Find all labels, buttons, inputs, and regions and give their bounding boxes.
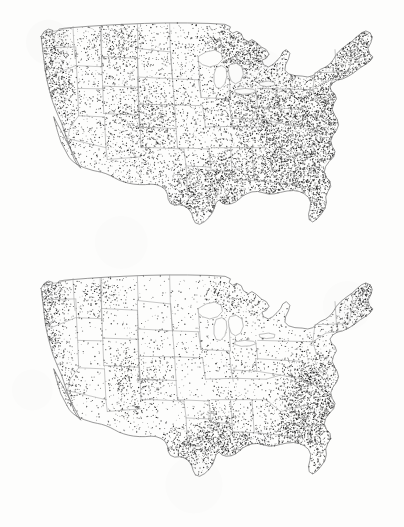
state-boundary-46 — [186, 166, 211, 167]
great-lake-4 — [259, 81, 275, 86]
state-boundary-64 — [259, 433, 280, 435]
state-boundary-56 — [231, 370, 233, 381]
state-boundary-40 — [172, 79, 198, 80]
state-boundary-28 — [79, 368, 105, 369]
state-boundary-46 — [186, 418, 211, 419]
state-boundary-17 — [76, 299, 77, 319]
state-boundary-78 — [335, 302, 336, 325]
state-boundary-32 — [106, 400, 107, 412]
state-boundary-0 — [73, 27, 75, 59]
great-lake-2 — [228, 315, 243, 336]
state-boundary-39 — [184, 401, 186, 418]
state-boundary-16 — [48, 318, 102, 329]
state-boundary-14 — [43, 279, 74, 286]
lower-us-dot-density-map — [0, 258, 404, 527]
great-lake-3 — [235, 88, 256, 94]
great-lake-3 — [235, 340, 256, 346]
state-boundary-22 — [103, 86, 139, 87]
state-boundary-53 — [229, 351, 231, 370]
state-boundary-67 — [281, 153, 305, 159]
state-boundary-17 — [76, 47, 77, 67]
great-lake-0 — [198, 50, 222, 67]
state-boundary-28 — [79, 116, 105, 117]
state-boundary-14 — [43, 27, 74, 34]
state-boundary-29 — [68, 368, 79, 391]
state-boundary-66 — [266, 400, 280, 412]
great-lake-4 — [259, 333, 275, 338]
state-boundary-12 — [175, 105, 176, 129]
state-boundary-7 — [138, 77, 172, 79]
great-lake-1 — [214, 318, 227, 341]
state-boundary-40 — [172, 331, 198, 332]
state-boundary-61 — [230, 400, 232, 432]
state-boundary-9 — [172, 331, 174, 357]
state-boundary-31 — [68, 139, 106, 148]
figure-caption — [0, 517, 404, 527]
state-boundary-48 — [170, 304, 172, 331]
state-boundary-43 — [203, 358, 206, 379]
great-lake-0 — [198, 302, 222, 319]
state-boundary-26 — [77, 319, 79, 368]
state-boundary-57 — [234, 378, 266, 379]
state-boundary-42 — [175, 357, 203, 358]
figure-root — [0, 0, 404, 527]
upper-us-dot-density-map — [0, 0, 404, 258]
state-boundary-22 — [103, 338, 139, 339]
upper-map-boundary-layer — [41, 23, 373, 224]
state-boundary-19 — [102, 56, 138, 58]
state-boundary-48 — [170, 52, 172, 79]
state-boundary-80 — [313, 72, 326, 89]
state-boundary-2 — [137, 276, 138, 300]
lower-map-canvas — [0, 258, 404, 527]
state-boundary-23 — [103, 338, 104, 365]
state-boundary-2 — [137, 24, 138, 48]
state-boundary-4 — [137, 301, 170, 304]
great-lake-1 — [214, 66, 227, 89]
great-lake-2 — [228, 63, 243, 84]
state-boundary-70 — [256, 359, 303, 362]
state-boundary-30 — [104, 369, 105, 400]
state-boundary-75 — [313, 333, 326, 342]
state-boundary-33 — [140, 115, 141, 147]
state-boundary-12 — [175, 357, 176, 381]
state-boundary-3 — [170, 275, 171, 304]
state-boundary-53 — [229, 99, 231, 118]
state-boundary-34 — [107, 157, 141, 160]
state-boundary-60 — [211, 422, 230, 423]
state-boundary-20 — [102, 56, 103, 86]
upper-map-canvas — [0, 0, 404, 258]
state-boundary-32 — [106, 148, 107, 160]
state-boundary-51 — [201, 350, 229, 351]
state-boundary-63 — [252, 148, 254, 180]
state-boundary-74 — [313, 342, 317, 354]
state-boundary-55 — [231, 370, 255, 371]
state-boundary-39 — [184, 149, 186, 166]
